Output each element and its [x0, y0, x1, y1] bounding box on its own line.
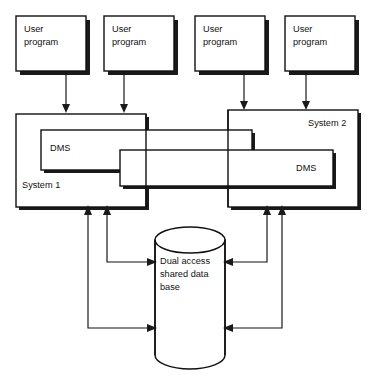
- arrowhead-up2: [120, 104, 128, 113]
- connector-system1-to-db: [88, 214, 155, 328]
- system-2-label: System 2: [308, 118, 346, 128]
- shared-database-cylinder[interactable]: Dual access shared data base: [155, 227, 225, 369]
- connector-db-to-system2: [225, 214, 267, 262]
- user-program-box-1[interactable]: User program: [16, 16, 90, 75]
- database-line1: Dual access: [160, 256, 210, 266]
- dms-2-label: DMS: [296, 163, 316, 173]
- user-program-2-line1: User: [112, 24, 131, 34]
- user-program-4-line2: program: [293, 37, 328, 47]
- user-program-box-3[interactable]: User program: [195, 16, 269, 75]
- arrowhead-up4: [302, 101, 310, 110]
- dms-1-label: DMS: [50, 143, 70, 153]
- user-program-2-line2: program: [112, 37, 147, 47]
- diagram-svg: User program User program User program U…: [0, 0, 373, 382]
- arrowhead-up3: [240, 101, 248, 110]
- diagram-canvas: User program User program User program U…: [0, 0, 373, 382]
- user-program-4-line1: User: [293, 24, 312, 34]
- connector-db-to-system1: [107, 214, 155, 262]
- user-program-3-line2: program: [203, 37, 238, 47]
- user-program-box-2[interactable]: User program: [104, 16, 178, 75]
- user-program-box-4[interactable]: User program: [285, 16, 359, 75]
- arrowhead-up1: [62, 104, 70, 113]
- user-program-1-line2: program: [24, 37, 59, 47]
- connector-system2-to-db: [225, 214, 282, 328]
- system1-database-connectors: [84, 205, 157, 332]
- database-line3: base: [160, 282, 180, 292]
- system2-database-connectors: [223, 205, 286, 332]
- database-line2: shared data: [160, 269, 209, 279]
- system-1-label: System 1: [22, 180, 60, 190]
- user-program-3-line1: User: [203, 24, 222, 34]
- user-program-to-system-arrows: [62, 71, 310, 113]
- user-program-1-line1: User: [24, 24, 43, 34]
- cylinder-top-ellipse: [155, 227, 225, 253]
